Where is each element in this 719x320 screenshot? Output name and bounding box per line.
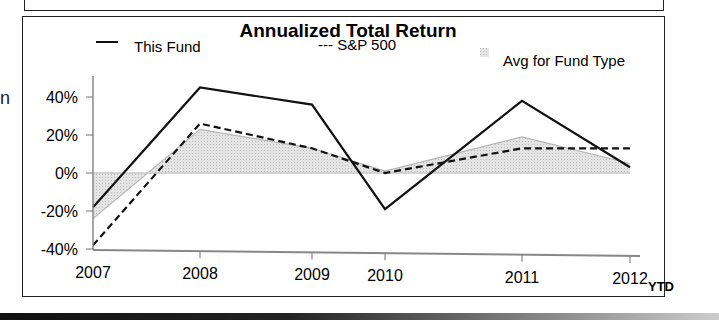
x-tick-label: 2009 (294, 266, 330, 283)
x-tick-label: 2012 (612, 270, 648, 287)
legend-area-swatch-icon (480, 48, 489, 57)
legend-sp500: --- S&P 500 (318, 36, 396, 53)
y-tick-label: -40% (41, 241, 78, 258)
annualized-return-chart: Annualized Total Return This Fund --- S&… (0, 0, 719, 320)
legend: This Fund --- S&P 500 Avg for Fund Type (96, 36, 625, 69)
ytd-label: YTD (648, 279, 674, 294)
legend-this-fund: This Fund (134, 38, 201, 55)
x-axis-line (93, 250, 640, 256)
y-tick-label: 0% (55, 165, 78, 182)
x-tick-label: 2007 (75, 264, 111, 281)
plot-area (93, 88, 630, 246)
page-edge-shadow (0, 313, 719, 320)
y-tick-label: 40% (46, 89, 78, 106)
y-tick-label: -20% (41, 203, 78, 220)
x-tick-label: 2010 (367, 267, 403, 284)
legend-avg-fund-type: Avg for Fund Type (503, 52, 625, 69)
y-tick-label: 20% (46, 127, 78, 144)
x-tick-label: 2008 (182, 265, 218, 282)
y-axis: 40%20%0%-20%-40% (41, 76, 93, 258)
sp500-line (93, 124, 630, 246)
x-axis: 200720082009201020112012 (75, 250, 648, 287)
x-tick-label: 2011 (505, 269, 540, 286)
